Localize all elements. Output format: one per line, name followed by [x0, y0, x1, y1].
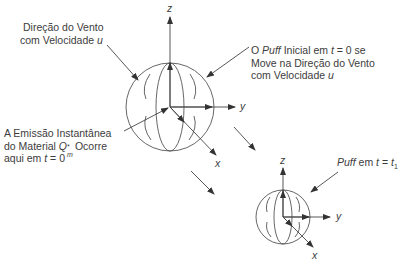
text: Ocorre [72, 140, 107, 152]
initial-puff-line2: Move na Direção do Vento [251, 57, 375, 70]
emission-label: A Emissão Instantânea do Material Q*m Oc… [4, 127, 111, 165]
wind-label-line1: Direção do Vento [23, 21, 104, 34]
text: do Material [4, 140, 59, 152]
emission-line2: do Material Q*m Ocorre [4, 140, 111, 153]
later-puff-label: Puff em t = t1 [337, 156, 398, 169]
later-puff-callout-arrow [311, 172, 338, 192]
text: = [379, 156, 391, 168]
mass-symbol: Q [59, 140, 67, 152]
text: com Velocidade [251, 69, 328, 81]
text: O [251, 44, 262, 56]
initial-puff-axes [170, 17, 235, 155]
puff-term: Puff [337, 156, 356, 168]
text: = 0 [47, 152, 65, 164]
subscript: 1 [394, 163, 398, 170]
initial-puff-line1: O Puff Inicial em t = 0 se [251, 44, 375, 57]
velocity-symbol: u [97, 34, 103, 46]
motion-arrows [191, 127, 255, 194]
motion-arrow-2 [191, 171, 214, 194]
initial-puff-label: O Puff Inicial em t = 0 se Move na Direç… [251, 44, 375, 82]
large-y-axis-label: y [240, 101, 245, 112]
wind-label-text: com Velocidade [20, 34, 97, 46]
wind-label-line2: com Velocidade u [20, 34, 104, 47]
velocity-symbol: u [328, 69, 334, 81]
wind-direction-label: Direção do Vento com Velocidade u [23, 21, 104, 46]
emission-line3: aqui em t = 0 [4, 152, 111, 165]
text: = 0 se [334, 44, 366, 56]
wind-callout-arrow [107, 45, 138, 80]
emission-callout-arrow [124, 108, 168, 131]
small-x-axis-label: x [312, 250, 317, 261]
text: aqui em [4, 152, 44, 164]
large-x-axis-label: x [215, 158, 220, 169]
large-z-axis-label: z [167, 3, 172, 14]
text: Inicial em [281, 44, 331, 56]
small-z-axis-label: z [280, 155, 285, 166]
puff-term: Puff [262, 44, 281, 56]
emission-line1: A Emissão Instantânea [4, 127, 111, 140]
text: em [356, 156, 376, 168]
initial-puff-line3: com Velocidade u [251, 69, 375, 82]
motion-arrow-1 [234, 127, 255, 150]
initial-puff-callout-arrow [207, 47, 249, 77]
small-y-axis-label: y [336, 211, 341, 222]
